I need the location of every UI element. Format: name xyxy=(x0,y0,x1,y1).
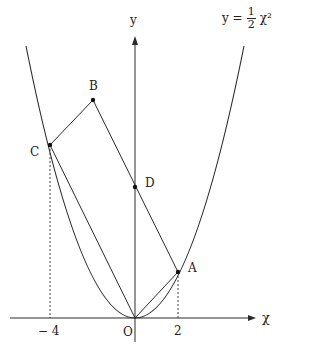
point-c-dot xyxy=(48,143,52,147)
segment-cb xyxy=(50,100,93,145)
point-d-label: D xyxy=(145,177,155,189)
origin-label: O xyxy=(123,326,133,338)
equation-denominator: 2 xyxy=(248,19,255,31)
segment-oa xyxy=(135,272,178,318)
segment-co xyxy=(50,145,135,318)
y-axis-arrow-icon xyxy=(132,36,138,45)
y-axis-label: y xyxy=(130,14,137,26)
tick-label-2: 2 xyxy=(174,325,182,337)
point-d-dot xyxy=(133,185,137,189)
tick-label-neg4: − 4 xyxy=(38,325,60,337)
point-b-dot xyxy=(91,98,95,102)
point-b-label: B xyxy=(89,80,98,92)
equation-rhs: χ² xyxy=(260,11,272,25)
x-axis-arrow-icon xyxy=(248,315,256,321)
point-a-label: A xyxy=(188,262,197,274)
equation-fraction: 1 2 xyxy=(247,6,256,30)
equation-numerator: 1 xyxy=(247,6,256,19)
x-axis-label: χ xyxy=(262,311,270,324)
point-a-dot xyxy=(176,270,180,274)
parabola-equation: y = 1 2 χ² xyxy=(222,6,272,30)
point-c-label: C xyxy=(30,146,39,158)
equation-lhs: y = xyxy=(222,11,243,25)
